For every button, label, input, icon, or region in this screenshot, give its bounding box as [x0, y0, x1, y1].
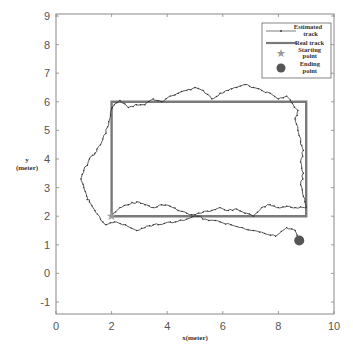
estimated-track-point: [83, 187, 84, 188]
estimated-track-point: [153, 98, 154, 99]
estimated-track-point: [144, 104, 145, 105]
end-circle-icon: [294, 236, 304, 246]
x-tick-label: 0: [53, 320, 59, 332]
estimated-track-point: [264, 233, 265, 234]
estimated-track-point: [232, 210, 233, 211]
estimated-track-point: [136, 104, 137, 105]
estimated-track-point: [290, 207, 291, 208]
estimated-track-point: [236, 208, 237, 209]
estimated-track-point: [297, 110, 298, 111]
estimated-track-point: [253, 216, 254, 217]
estimated-track-point: [278, 207, 279, 208]
estimated-track-point: [244, 84, 245, 85]
estimated-track-point: [223, 91, 224, 92]
estimated-track-point: [85, 191, 86, 192]
estimated-track-point: [180, 219, 181, 220]
estimated-track-point: [300, 141, 301, 142]
estimated-track-point: [87, 165, 88, 166]
estimated-track-point: [269, 204, 270, 205]
estimated-track-point: [258, 88, 259, 89]
estimated-track-point: [124, 103, 125, 104]
estimated-track-point: [304, 201, 305, 202]
estimated-track-point: [296, 124, 297, 125]
estimated-track-point: [249, 86, 250, 87]
x-tick-label: 2: [109, 320, 115, 332]
estimated-track-point: [100, 218, 101, 219]
estimated-track-point: [301, 145, 302, 146]
estimated-track-point: [198, 88, 199, 89]
estimated-track-point: [86, 199, 87, 200]
x-tick-label: 4: [164, 320, 170, 332]
y-tick-label: 8: [44, 39, 50, 51]
estimated-track-point: [133, 106, 134, 107]
estimated-track-point: [236, 87, 237, 88]
estimated-track-point: [144, 227, 145, 228]
estimated-track-point: [298, 135, 299, 136]
estimated-track-point: [181, 91, 182, 92]
start-star-icon: ★: [106, 209, 117, 223]
estimated-track-point: [86, 196, 87, 197]
estimated-track-point: [141, 228, 142, 229]
estimated-track-point: [273, 205, 274, 206]
legend-real-label: Real track: [295, 39, 324, 46]
estimated-track-point: [228, 210, 229, 211]
estimated-track-point: [110, 115, 111, 116]
estimated-track-point: [257, 212, 258, 213]
estimated-track-point: [294, 230, 295, 231]
legend-end-label-2: point: [303, 67, 318, 74]
estimated-track-point: [294, 118, 295, 119]
estimated-track-point: [128, 107, 129, 108]
estimated-track-point: [302, 189, 303, 190]
estimated-track-point: [165, 204, 166, 205]
estimated-track-point: [237, 226, 238, 227]
estimated-track-point: [239, 210, 240, 211]
legend-estimated-label-1: Estimated: [294, 23, 323, 30]
estimated-track-point: [102, 221, 103, 222]
estimated-track-point: [128, 204, 129, 205]
estimated-track-point: [161, 204, 162, 205]
estimated-track-point: [149, 225, 150, 226]
x-tick-label: 6: [220, 320, 226, 332]
estimated-track-point: [219, 221, 220, 222]
estimated-track-point: [191, 214, 192, 215]
estimated-track-point: [89, 201, 90, 202]
estimated-track-point: [207, 210, 208, 211]
estimated-track-point: [164, 223, 165, 224]
estimated-track-point: [80, 178, 81, 179]
y-tick-label: 4: [44, 153, 50, 165]
estimated-track-point: [292, 103, 293, 104]
estimated-track-point: [230, 224, 231, 225]
y-tick-label: 9: [44, 10, 50, 22]
estimated-track-point: [96, 148, 97, 149]
estimated-track-point: [107, 126, 108, 127]
x-axis-title: x(meter): [182, 334, 208, 342]
estimated-track-point: [231, 88, 232, 89]
y-tick-label: 6: [44, 96, 50, 108]
y-tick-label: 0: [44, 267, 50, 279]
estimated-track-point: [144, 204, 145, 205]
estimated-track-point: [253, 87, 254, 88]
estimated-track-point: [156, 206, 157, 207]
estimated-track-point: [300, 161, 301, 162]
estimated-track-point: [225, 223, 226, 224]
estimated-track-point: [291, 228, 292, 229]
estimated-track-point: [186, 90, 187, 91]
estimated-track-point: [114, 104, 115, 105]
y-tick-label: 2: [44, 210, 50, 222]
estimated-track-point: [302, 156, 303, 157]
estimated-track-point: [269, 93, 270, 94]
y-tick-label: -1: [40, 296, 50, 308]
estimated-track-point: [105, 133, 106, 134]
estimated-track-point: [197, 216, 198, 217]
y-tick-label: 5: [44, 124, 50, 136]
estimated-track-point: [207, 94, 208, 95]
estimated-track-point: [89, 158, 90, 159]
estimated-track-point: [281, 231, 282, 232]
estimated-track-point: [247, 229, 248, 230]
estimated-track-point: [194, 87, 195, 88]
estimated-track-point: [178, 210, 179, 211]
estimated-track-point: [169, 95, 170, 96]
estimated-track-point: [265, 92, 266, 93]
estimated-track-point: [300, 206, 301, 207]
estimated-track-point: [149, 205, 150, 206]
